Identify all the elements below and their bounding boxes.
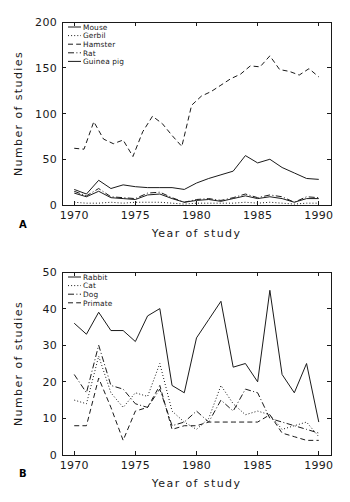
x-tick-label: 1985 — [243, 209, 272, 222]
y-tick-label: 40 — [42, 303, 57, 316]
x-tick-label: 1975 — [121, 459, 150, 472]
panel-a: 05010015020019701975198019851990Year of … — [0, 0, 350, 252]
series-line-primate — [74, 378, 319, 440]
y-axis-title: Number of studies — [12, 301, 25, 426]
chart-panel-b: 0102030405019701975198019851990Year of s… — [0, 252, 350, 502]
series-line-cat — [74, 356, 319, 437]
x-axis-title: Year of study — [151, 477, 242, 490]
chart-panel-a: 05010015020019701975198019851990Year of … — [0, 0, 350, 252]
panel-b: 0102030405019701975198019851990Year of s… — [0, 252, 350, 502]
x-tick-label: 1970 — [60, 209, 89, 222]
y-tick-label: 10 — [42, 412, 57, 425]
y-tick-label: 20 — [42, 376, 57, 389]
series-line-guinea-pig — [74, 191, 319, 202]
legend-label-guinea-pig: Guinea pig — [83, 57, 124, 66]
series-line-mouse — [74, 156, 319, 194]
x-axis-title: Year of study — [151, 227, 242, 240]
x-tick-label: 1985 — [243, 459, 272, 472]
x-tick-label: 1980 — [182, 209, 211, 222]
y-tick-label: 30 — [42, 339, 57, 352]
panel-a-letter: A — [19, 219, 27, 230]
y-tick-label: 100 — [35, 108, 57, 121]
y-axis-title: Number of studies — [12, 51, 25, 176]
x-tick-label: 1970 — [60, 459, 89, 472]
x-tick-label: 1980 — [182, 459, 211, 472]
panel-b-letter: B — [19, 468, 27, 479]
x-tick-label: 1975 — [121, 209, 150, 222]
series-line-hamster — [74, 56, 319, 157]
series-line-rabbit — [74, 290, 319, 422]
y-tick-label: 50 — [42, 266, 57, 279]
y-tick-label: 0 — [50, 449, 57, 462]
x-tick-label: 1990 — [304, 459, 333, 472]
x-tick-label: 1990 — [304, 209, 333, 222]
y-tick-label: 150 — [35, 62, 57, 75]
y-tick-label: 200 — [35, 16, 57, 29]
legend-label-primate: Primate — [83, 299, 113, 308]
series-line-dog — [74, 345, 319, 433]
y-tick-label: 0 — [50, 199, 57, 212]
y-tick-label: 50 — [42, 153, 57, 166]
